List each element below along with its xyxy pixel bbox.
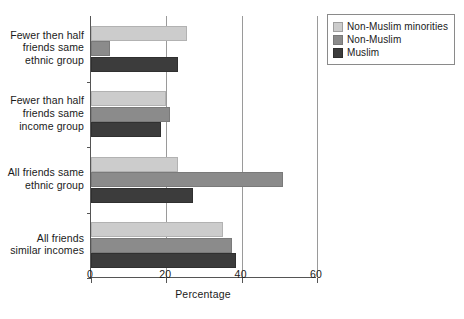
legend-item: Muslim <box>333 46 448 59</box>
bar-muslim <box>91 253 236 268</box>
legend-item-label: Non-Muslim <box>347 34 401 45</box>
legend-item: Non-Muslim <box>333 33 448 46</box>
x-axis-tick-label: 60 <box>303 268 329 280</box>
bar-muslim <box>91 122 161 137</box>
legend-item-label: Muslim <box>347 47 379 58</box>
x-axis-title: Percentage <box>90 288 316 300</box>
x-axis-tick-label: 40 <box>228 268 254 280</box>
category-label-line: similar incomes <box>0 244 84 257</box>
legend-swatch-icon <box>333 22 343 32</box>
category-label-line: Fewer than half <box>0 94 84 107</box>
legend-swatch-icon <box>333 35 343 45</box>
gridline <box>317 16 318 277</box>
category-label-line: ethnic group <box>0 179 84 192</box>
plot-area <box>90 16 316 278</box>
bar-non-muslim-minorities <box>91 26 187 41</box>
category-label-line: ethnic group <box>0 54 84 67</box>
bar-muslim <box>91 188 193 203</box>
legend-swatch-icon <box>333 48 343 58</box>
category-label-line: income group <box>0 120 84 133</box>
category-label-line: friends same <box>0 41 84 54</box>
bar-non-muslim <box>91 238 232 253</box>
category-label: All friends sameethnic group <box>0 166 84 191</box>
bar-chart-figure: Percentage Non-Muslim minoritiesNon-Musl… <box>0 0 464 319</box>
category-label-line: Fewer then half <box>0 29 84 42</box>
bar-muslim <box>91 57 178 72</box>
bar-non-muslim-minorities <box>91 157 178 172</box>
legend-item: Non-Muslim minorities <box>333 20 448 33</box>
category-label-line: friends same <box>0 107 84 120</box>
y-axis-tick <box>87 213 91 214</box>
category-label-line: All friends <box>0 232 84 245</box>
bar-non-muslim <box>91 107 170 122</box>
bar-non-muslim <box>91 41 110 56</box>
category-label: Fewer then halffriends sameethnic group <box>0 29 84 67</box>
x-axis-tick-label: 20 <box>152 268 178 280</box>
y-axis-tick <box>87 147 91 148</box>
chart-legend: Non-Muslim minoritiesNon-MuslimMuslim <box>327 14 455 65</box>
category-label: Fewer than halffriends sameincome group <box>0 94 84 132</box>
bar-non-muslim <box>91 172 283 187</box>
legend-item-label: Non-Muslim minorities <box>347 21 448 32</box>
x-axis-tick-label: 0 <box>77 268 103 280</box>
bar-non-muslim-minorities <box>91 222 223 237</box>
category-label: All friendssimilar incomes <box>0 232 84 257</box>
gridline <box>242 16 243 277</box>
y-axis-tick <box>87 82 91 83</box>
category-label-line: All friends same <box>0 166 84 179</box>
bar-non-muslim-minorities <box>91 91 166 106</box>
